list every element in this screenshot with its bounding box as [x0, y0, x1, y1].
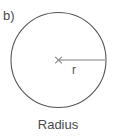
- part-label: b): [3, 8, 15, 23]
- figure-container: b) r Radius: [0, 0, 116, 137]
- radius-label: r: [72, 64, 76, 77]
- figure-caption: Radius: [0, 117, 116, 133]
